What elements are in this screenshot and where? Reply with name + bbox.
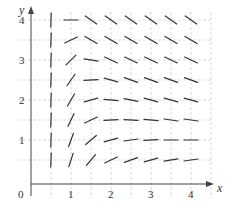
y-axis-arrow-icon: [28, 6, 34, 14]
y-tick-label: 2: [19, 94, 25, 106]
slope-segment: [104, 120, 118, 121]
x-tick-label: 3: [148, 188, 154, 200]
y-tick-label: 1: [19, 134, 25, 146]
origin-label: 0: [18, 188, 24, 200]
x-tick-label: 4: [188, 188, 194, 200]
axes: [28, 6, 214, 196]
slope-segment: [104, 99, 118, 100]
slope-field-chart: 12341234 x y 0: [0, 0, 232, 204]
slope-segment: [144, 119, 158, 120]
grid-lines: [18, 12, 213, 198]
slope-segments: [51, 13, 198, 167]
x-axis-label: x: [216, 181, 223, 195]
slope-segment: [84, 80, 98, 81]
slope-segment: [124, 120, 138, 121]
x-tick-label: 2: [108, 188, 114, 200]
x-axis-arrow-icon: [206, 181, 214, 187]
slope-segment: [144, 140, 158, 141]
y-tick-label: 3: [19, 54, 25, 66]
y-axis-label: y: [18, 3, 25, 17]
tick-labels: 12341234: [19, 14, 194, 200]
x-tick-label: 1: [68, 188, 74, 200]
